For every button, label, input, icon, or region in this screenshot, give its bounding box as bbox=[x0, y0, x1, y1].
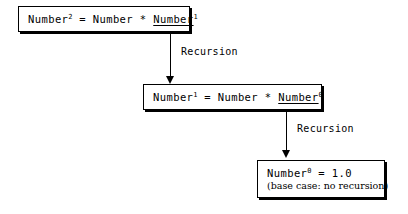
arrow-2-label: Recursion bbox=[297, 123, 354, 134]
box-base-case: Number0 = 1.0 (base case: no recursion) bbox=[257, 160, 385, 198]
equation-base-case: Number0 = 1.0 bbox=[258, 166, 384, 180]
recursion-diagram: Number2 = Number * Number1 Recursion Num… bbox=[0, 0, 408, 214]
equation-result: = 1.0 bbox=[312, 167, 352, 179]
equation-base: Number bbox=[28, 13, 68, 25]
equation-level-1: Number1 = Number * Number0 bbox=[144, 90, 321, 104]
arrow-2-head-icon bbox=[282, 150, 290, 158]
recursive-call-exponent: 0 bbox=[319, 90, 323, 98]
base-case-note: (base case: no recursion) bbox=[258, 180, 384, 193]
arrow-1-head-icon bbox=[166, 76, 174, 84]
box-level-1: Number1 = Number * Number0 bbox=[143, 84, 322, 110]
arrow-1-label: Recursion bbox=[181, 46, 238, 57]
equation-base: Number bbox=[267, 167, 307, 179]
arrow-1-line bbox=[170, 31, 171, 77]
box-level-2: Number2 = Number * Number1 bbox=[18, 6, 190, 32]
equation-base: Number bbox=[153, 91, 193, 103]
recursive-call-exponent: 1 bbox=[194, 12, 198, 20]
equation-operator: = Number * bbox=[73, 13, 154, 25]
arrow-2-line bbox=[286, 109, 287, 151]
equation-operator: = Number * bbox=[198, 91, 279, 103]
equation-level-2: Number2 = Number * Number1 bbox=[19, 12, 189, 26]
recursive-call-base: Number bbox=[153, 13, 193, 25]
recursive-call-base: Number bbox=[278, 91, 318, 103]
